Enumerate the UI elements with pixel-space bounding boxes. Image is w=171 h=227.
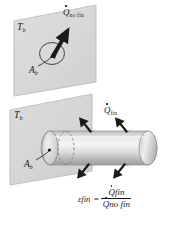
a-symbol: A: [29, 65, 35, 75]
label-base-area-bottom: Ab: [24, 160, 33, 170]
equals-sign: =: [94, 194, 99, 204]
q-subscript: no fin: [70, 12, 84, 18]
label-base-area-top: Ab: [29, 66, 38, 76]
q-dot-overdot: [65, 5, 67, 7]
fraction-denominator: Qno fin: [102, 199, 131, 209]
q-dot-overdot: [106, 103, 108, 105]
q-symbol: Q: [63, 7, 70, 17]
a-subscript: b: [30, 164, 33, 170]
q-dot-overdot: [111, 185, 113, 187]
label-heat-rate-no-fin: Qno fin: [63, 8, 84, 17]
fin-arrow-lower-right: [113, 163, 132, 179]
q-symbol: Q: [108, 187, 115, 197]
t-subscript: b: [23, 26, 26, 33]
fin-arrow-upper-right: [115, 117, 134, 133]
a-subscript: b: [35, 70, 38, 76]
q-symbol: Q: [103, 199, 110, 209]
fin-effectiveness-diagram: Qno fin Tb Ab Tb Ab Qfin εfin = Qfin Qno…: [0, 0, 171, 227]
q-subscript: no fin: [109, 199, 130, 209]
t-symbol: T: [17, 21, 23, 32]
q-subscript: fin: [115, 187, 125, 197]
t-subscript: b: [20, 114, 23, 121]
label-wall-temperature-top: Tb: [17, 22, 26, 32]
fraction-numerator: Qfin: [107, 188, 125, 198]
fin-effectiveness-equation: εfin = Qfin Qno fin: [78, 188, 131, 209]
q-symbol: Q: [104, 105, 111, 115]
label-heat-rate-fin: Qfin: [104, 106, 117, 115]
a-symbol: A: [24, 159, 30, 169]
cylindrical-fin: [41, 131, 157, 165]
label-wall-temperature-bottom: Tb: [14, 110, 23, 120]
epsilon-term: εfin: [78, 194, 90, 204]
q-subscript: fin: [111, 110, 118, 116]
q-dot-overdot: [105, 197, 107, 199]
fraction: Qfin Qno fin: [101, 188, 131, 209]
t-symbol: T: [14, 109, 20, 120]
epsilon-subscript: fin: [81, 194, 90, 204]
